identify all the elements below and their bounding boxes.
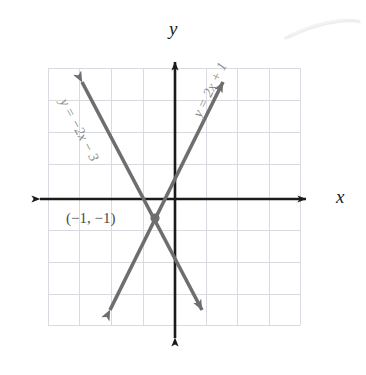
graph-figure: x y (−1, −1) y = 2x + 1 y = −2x − 3 bbox=[0, 0, 366, 375]
intersection-point-dot bbox=[150, 213, 159, 222]
y-axis-label: y bbox=[169, 18, 177, 40]
x-axis-label: x bbox=[336, 186, 344, 208]
coordinate-plane-svg bbox=[0, 0, 366, 375]
scan-smudge-artifact bbox=[286, 20, 359, 38]
intersection-point-label: (−1, −1) bbox=[66, 210, 115, 227]
descending-line bbox=[82, 82, 202, 310]
